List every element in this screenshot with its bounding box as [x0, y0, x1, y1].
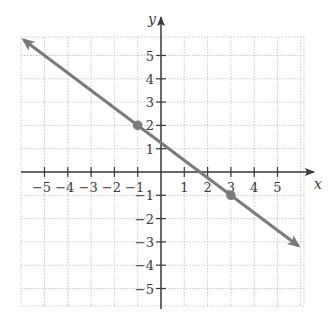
y-axis-label: y	[147, 11, 157, 27]
x-tick-label: 2	[203, 180, 211, 195]
y-tick-label: 5	[146, 49, 154, 64]
x-tick-label: 4	[250, 180, 258, 195]
x-tick-label: 5	[273, 180, 281, 195]
y-tick-label: −5	[135, 282, 154, 297]
y-tick-label: −1	[135, 188, 154, 203]
x-tick-label: −5	[32, 180, 51, 195]
y-tick-label: −4	[135, 258, 154, 273]
y-tick-label: 1	[146, 142, 154, 157]
data-point	[226, 191, 236, 201]
x-tick-label: −2	[102, 180, 121, 195]
x-axis-label: x	[314, 176, 322, 192]
y-tick-label: −2	[135, 212, 154, 227]
data-point	[133, 121, 143, 131]
x-tick-label: 1	[180, 180, 188, 195]
x-tick-label: −4	[55, 180, 74, 195]
coordinate-plane: −5−4−3−2−112345−5−4−3−2−112345 x y	[0, 0, 332, 324]
y-tick-label: 3	[146, 95, 154, 110]
y-tick-label: −3	[135, 235, 154, 250]
y-tick-label: 4	[146, 72, 154, 87]
x-tick-label: −3	[79, 180, 98, 195]
